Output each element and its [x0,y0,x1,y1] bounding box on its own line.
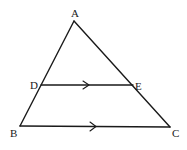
segment-ab [20,21,74,126]
label-b: B [10,127,17,139]
label-e: E [135,80,142,92]
label-c: C [172,127,179,139]
label-d: D [30,79,38,91]
triangle-diagram: A D E B C [0,0,187,150]
segment-ac [74,21,170,127]
label-a: A [71,7,79,19]
